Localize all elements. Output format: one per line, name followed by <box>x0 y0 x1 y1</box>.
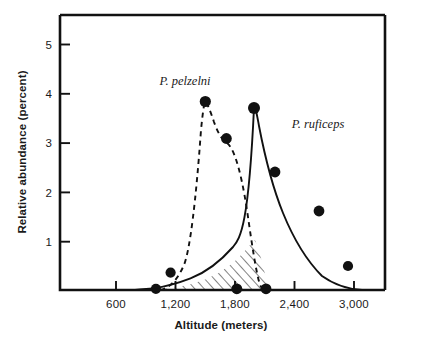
x-tick-label: 1,200 <box>161 298 191 310</box>
x-axis-title: Altitude (meters) <box>174 319 267 331</box>
datapoint <box>314 206 325 217</box>
x-tick-label: 600 <box>106 298 126 310</box>
datapoint <box>343 261 353 271</box>
y-tick-label: 4 <box>45 88 52 100</box>
x-tick-label: 3,000 <box>339 298 369 310</box>
y-tick-label: 2 <box>45 187 52 199</box>
overlap-hatched-region <box>156 240 269 290</box>
y-tick-label: 1 <box>45 236 52 248</box>
chart-svg: 5 4 3 2 1 600 1,200 1,800 2,400 3,000 Al… <box>0 0 422 343</box>
y-axis-title: Relative abundance (percent) <box>16 70 28 233</box>
datapoint <box>270 167 281 178</box>
y-axis-ticks <box>60 45 70 242</box>
y-axis-tick-labels: 5 4 3 2 1 <box>45 39 52 248</box>
y-tick-label: 3 <box>45 137 52 149</box>
datapoint <box>200 96 211 107</box>
ruficeps-label: P. ruficeps <box>291 117 345 131</box>
datapoint <box>248 102 260 114</box>
pelzelni-label: P. pelzelni <box>158 74 211 88</box>
x-tick-label: 1,800 <box>220 298 250 310</box>
chart-figure: 5 4 3 2 1 600 1,200 1,800 2,400 3,000 Al… <box>0 0 422 343</box>
x-tick-label: 2,400 <box>280 298 310 310</box>
datapoint <box>166 268 176 278</box>
y-tick-label: 5 <box>45 39 52 51</box>
axis-frame <box>60 15 385 290</box>
x-axis-tick-labels: 600 1,200 1,800 2,400 3,000 <box>106 298 369 310</box>
datapoint <box>221 133 232 144</box>
